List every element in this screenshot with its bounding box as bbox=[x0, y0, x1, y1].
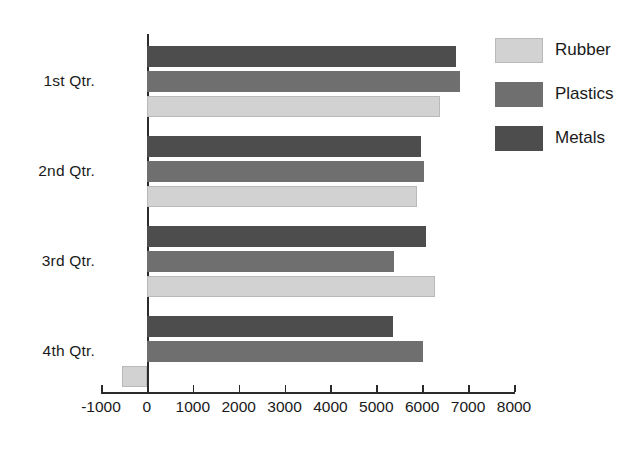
category-axis-labels: 1st Qtr. 2nd Qtr. 3rd Qtr. 4th Qtr. bbox=[0, 34, 95, 392]
legend-label-rubber: Rubber bbox=[555, 40, 611, 60]
category-label-3: 3rd Qtr. bbox=[3, 252, 95, 270]
bar-row bbox=[101, 186, 514, 207]
bar-row bbox=[101, 341, 514, 362]
x-tick-label-6000: 6000 bbox=[405, 398, 439, 416]
x-tick-0 bbox=[147, 385, 149, 392]
bar-rubber-q1[interactable] bbox=[147, 96, 440, 117]
x-axis-tick-labels: -1000010002000300040005000600070008000 bbox=[101, 398, 515, 420]
x-tick-label-4000: 4000 bbox=[313, 398, 347, 416]
bar-plastics-q1[interactable] bbox=[147, 71, 460, 92]
bar-row bbox=[101, 161, 514, 182]
x-tick-6000 bbox=[422, 385, 424, 392]
x-axis-line bbox=[101, 392, 515, 394]
legend-swatch-rubber-icon bbox=[495, 38, 543, 63]
bar-rubber-q3[interactable] bbox=[147, 276, 435, 297]
bar-row bbox=[101, 96, 514, 117]
bar-metals-q2[interactable] bbox=[147, 136, 421, 157]
x-tick-5000 bbox=[376, 385, 378, 392]
bar-plastics-q3[interactable] bbox=[147, 251, 394, 272]
x-tick-2000 bbox=[239, 385, 241, 392]
bar-row bbox=[101, 366, 514, 387]
bar-row bbox=[101, 136, 514, 157]
legend-item-metals[interactable]: Metals bbox=[495, 126, 630, 152]
legend-item-rubber[interactable]: Rubber bbox=[495, 38, 630, 64]
bar-chart: 1st Qtr. 2nd Qtr. 3rd Qtr. 4th Qtr. -100… bbox=[0, 0, 633, 454]
bar-row bbox=[101, 276, 514, 297]
legend-label-metals: Metals bbox=[555, 128, 605, 148]
x-tick-label-0: 0 bbox=[143, 398, 152, 416]
legend: Rubber Plastics Metals bbox=[495, 38, 630, 170]
x-tick-3000 bbox=[285, 385, 287, 392]
bar-metals-q1[interactable] bbox=[147, 46, 456, 67]
x-tick-8000 bbox=[514, 385, 516, 392]
bar-plastics-q4[interactable] bbox=[147, 341, 423, 362]
legend-label-plastics: Plastics bbox=[555, 84, 614, 104]
bar-row bbox=[101, 46, 514, 67]
bar-rubber-q4[interactable] bbox=[122, 366, 147, 387]
x-tick-label-2000: 2000 bbox=[221, 398, 255, 416]
bar-rubber-q2[interactable] bbox=[147, 186, 417, 207]
x-tick-7000 bbox=[468, 385, 470, 392]
x-tick-label-7000: 7000 bbox=[451, 398, 485, 416]
x-tick-label-5000: 5000 bbox=[359, 398, 393, 416]
bar-metals-q3[interactable] bbox=[147, 226, 426, 247]
x-tick-4000 bbox=[330, 385, 332, 392]
legend-swatch-plastics-icon bbox=[495, 82, 543, 107]
bar-row bbox=[101, 251, 514, 272]
bar-row bbox=[101, 316, 514, 337]
legend-swatch-metals-icon bbox=[495, 126, 543, 151]
legend-item-plastics[interactable]: Plastics bbox=[495, 82, 630, 108]
category-label-4: 4th Qtr. bbox=[3, 342, 95, 360]
bar-metals-q4[interactable] bbox=[147, 316, 393, 337]
x-tick--1000 bbox=[101, 385, 103, 392]
category-label-2: 2nd Qtr. bbox=[3, 162, 95, 180]
plot-area bbox=[101, 34, 514, 392]
bar-row bbox=[101, 226, 514, 247]
bar-row bbox=[101, 71, 514, 92]
x-tick-label-1000: 1000 bbox=[176, 398, 210, 416]
x-tick-label-3000: 3000 bbox=[267, 398, 301, 416]
x-tick-label-8000: 8000 bbox=[497, 398, 531, 416]
category-label-1: 1st Qtr. bbox=[3, 72, 95, 90]
x-tick-label--1000: -1000 bbox=[81, 398, 121, 416]
bar-plastics-q2[interactable] bbox=[147, 161, 424, 182]
x-tick-1000 bbox=[193, 385, 195, 392]
